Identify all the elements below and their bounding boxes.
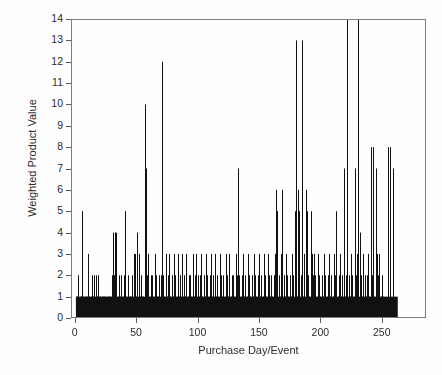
y-tick-label: 0 <box>23 312 63 322</box>
y-tick-label: 11 <box>23 77 63 87</box>
x-tick <box>198 318 199 323</box>
y-tick-label: 9 <box>23 120 63 130</box>
x-tick <box>259 318 260 323</box>
x-tick-label: 150 <box>239 326 279 338</box>
y-tick-label: 13 <box>23 34 63 44</box>
y-tick-label: 10 <box>23 98 63 108</box>
x-tick <box>75 318 76 323</box>
x-tick <box>320 318 321 323</box>
y-tick-label: 7 <box>23 163 63 173</box>
plot-frame <box>71 19 426 318</box>
y-tick-label: 5 <box>23 205 63 215</box>
chart-figure: Weighted Product Value 01234567891011121… <box>0 0 442 375</box>
y-tick-label: 3 <box>23 248 63 258</box>
x-tick-label: 100 <box>178 326 218 338</box>
y-tick-label: 1 <box>23 291 63 301</box>
x-tick-label: 50 <box>116 326 156 338</box>
x-tick <box>382 318 383 323</box>
y-tick-label: 4 <box>23 227 63 237</box>
x-axis-title: Purchase Day/Event <box>71 344 426 356</box>
x-tick-label: 0 <box>55 326 95 338</box>
y-tick-label: 6 <box>23 184 63 194</box>
y-tick-label: 2 <box>23 269 63 279</box>
y-tick-label: 8 <box>23 141 63 151</box>
y-tick-label: 14 <box>23 13 63 23</box>
y-tick-label: 12 <box>23 56 63 66</box>
x-tick <box>136 318 137 323</box>
y-tick <box>66 318 71 319</box>
y-axis-title: Weighted Product Value <box>26 63 38 253</box>
x-tick-label: 250 <box>362 326 402 338</box>
x-tick-label: 200 <box>300 326 340 338</box>
